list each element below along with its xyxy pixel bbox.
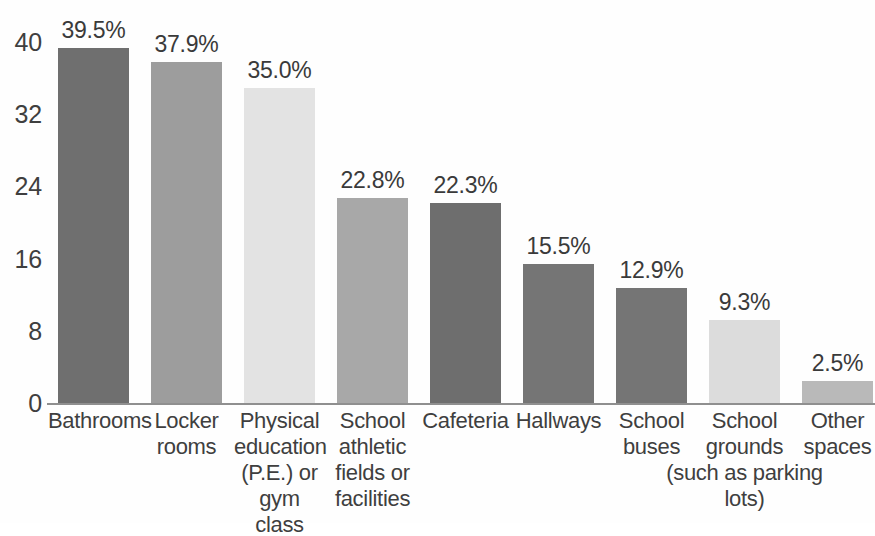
bar-rect [337, 198, 408, 404]
bar: 39.5% [58, 48, 129, 404]
category-label-line: fields or [327, 460, 418, 486]
category-label-line: Physical [234, 408, 325, 434]
bar-rect [430, 203, 501, 404]
bar-value-label: 12.9% [619, 259, 683, 282]
bar-rect [151, 62, 222, 404]
category-label-line: Other [792, 408, 875, 434]
category-label-line: School [606, 408, 697, 434]
bar: 12.9% [616, 288, 687, 404]
x-axis-line [47, 403, 875, 405]
category-label-line: School [699, 408, 790, 434]
bar-value-label: 35.0% [247, 59, 311, 82]
category-label-line: School [327, 408, 418, 434]
y-tick-label: 24 [6, 174, 42, 199]
bar: 22.8% [337, 198, 408, 404]
category-label: Bathrooms [48, 408, 139, 434]
y-tick-label: 8 [6, 319, 42, 344]
category-label: Cafeteria [420, 408, 511, 434]
category-label-line: Hallways [513, 408, 604, 434]
span-annotation: (such as parkinglots) [596, 460, 875, 512]
category-label-line: buses [606, 434, 697, 460]
bar-value-label: 22.8% [340, 169, 404, 192]
category-label: Lockerrooms [141, 408, 232, 460]
bar: 37.9% [151, 62, 222, 404]
category-label-line: rooms [141, 434, 232, 460]
bar: 15.5% [523, 264, 594, 404]
bar-value-label: 37.9% [154, 33, 218, 56]
bar-rect [58, 48, 129, 404]
bar-rect [709, 320, 780, 404]
category-label-line: grounds [699, 434, 790, 460]
category-label-line: gym class [234, 486, 325, 536]
bar-rect [802, 381, 873, 404]
category-labels: BathroomsLockerroomsPhysicaleducation(P.… [0, 408, 875, 523]
bar-value-label: 15.5% [526, 235, 590, 258]
category-label: Hallways [513, 408, 604, 434]
category-label: Schoolgrounds [699, 408, 790, 460]
bar-value-label: 39.5% [61, 19, 125, 42]
bar: 35.0% [244, 88, 315, 404]
plot-area: 4032241680 39.5%37.9%35.0%22.8%22.3%15.5… [0, 0, 875, 410]
category-label: Otherspaces [792, 408, 875, 460]
span-annotation-line: (such as parking [596, 460, 875, 486]
bar-rect [616, 288, 687, 404]
bar-rect [523, 264, 594, 404]
category-label: Schoolathleticfields orfacilities [327, 408, 418, 512]
bar-value-label: 2.5% [812, 352, 864, 375]
category-label-line: athletic [327, 434, 418, 460]
category-label-line: Bathrooms [48, 408, 139, 434]
bar: 9.3% [709, 320, 780, 404]
category-label-line: Locker [141, 408, 232, 434]
span-annotation-line: lots) [596, 486, 875, 512]
category-label-line: Cafeteria [420, 408, 511, 434]
bar: 22.3% [430, 203, 501, 404]
bar-value-label: 9.3% [719, 291, 771, 314]
bar: 2.5% [802, 381, 873, 404]
category-label: Physicaleducation(P.E.) orgym class [234, 408, 325, 536]
bar-value-label: 22.3% [433, 174, 497, 197]
y-tick-label: 32 [6, 102, 42, 127]
category-label-line: (P.E.) or [234, 460, 325, 486]
category-label: Schoolbuses [606, 408, 697, 460]
bar-rect [244, 88, 315, 404]
category-label-line: education [234, 434, 325, 460]
category-label-line: facilities [327, 486, 418, 512]
y-tick-label: 16 [6, 247, 42, 272]
y-tick-label: 40 [6, 30, 42, 55]
category-label-line: spaces [792, 434, 875, 460]
